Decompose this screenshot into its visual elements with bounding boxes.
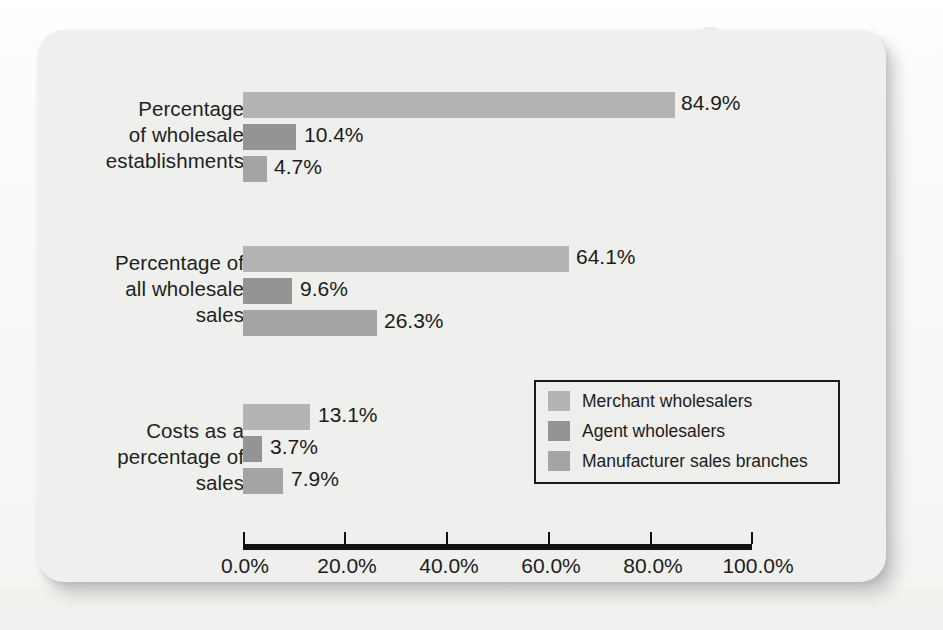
bar-group0-agent-wholesalers bbox=[243, 124, 296, 150]
legend-item-agent-wholesalers: Agent wholesalers bbox=[548, 418, 725, 444]
bar-group2-manufacturer-branches bbox=[243, 468, 283, 494]
legend-swatch-icon-agent bbox=[548, 421, 570, 441]
x-axis-tick-40 bbox=[446, 532, 448, 544]
chart-plot-area: Percentage of wholesale establishments 8… bbox=[38, 30, 886, 582]
x-axis-tick-label-0: 0.0% bbox=[221, 554, 269, 578]
legend-label-merchant: Merchant wholesalers bbox=[582, 391, 752, 412]
category-label-costs-percentage-of-sales: Costs as a percentage of sales bbox=[58, 418, 244, 496]
legend-swatch-icon-merchant bbox=[548, 391, 570, 411]
bar-value-group0-merchant: 84.9% bbox=[681, 90, 741, 116]
x-axis-tick-label-20: 20.0% bbox=[317, 554, 377, 578]
bar-group1-merchant-wholesalers bbox=[243, 246, 569, 272]
legend-swatch-icon-manufacturer bbox=[548, 451, 570, 471]
bar-value-group1-manufacturer: 26.3% bbox=[384, 308, 444, 334]
bar-group1-agent-wholesalers bbox=[243, 278, 292, 304]
x-axis-line bbox=[243, 544, 752, 550]
x-axis-tick-label-40: 40.0% bbox=[419, 554, 479, 578]
bar-value-group1-merchant: 64.1% bbox=[576, 244, 636, 270]
legend-label-agent: Agent wholesalers bbox=[582, 421, 725, 442]
x-axis-tick-80 bbox=[650, 532, 652, 544]
bar-group0-manufacturer-branches bbox=[243, 156, 267, 182]
bar-value-group0-agent: 10.4% bbox=[304, 122, 364, 148]
chart-legend: Merchant wholesalers Agent wholesalers M… bbox=[534, 380, 840, 484]
bar-value-group2-merchant: 13.1% bbox=[318, 402, 378, 428]
x-axis-tick-20 bbox=[344, 532, 346, 544]
x-axis-tick-60 bbox=[548, 532, 550, 544]
bar-value-group2-manufacturer: 7.9% bbox=[291, 466, 339, 492]
bar-group2-agent-wholesalers bbox=[243, 436, 262, 462]
x-axis-tick-label-80: 80.0% bbox=[623, 554, 683, 578]
legend-item-manufacturer-sales-branches: Manufacturer sales branches bbox=[548, 448, 808, 474]
chart-card: Percentage of wholesale establishments 8… bbox=[38, 30, 886, 582]
x-axis-tick-100 bbox=[751, 532, 753, 544]
bar-group2-merchant-wholesalers bbox=[243, 404, 310, 430]
bar-value-group2-agent: 3.7% bbox=[270, 434, 318, 460]
bar-group1-manufacturer-branches bbox=[243, 310, 377, 336]
category-label-wholesale-establishments: Percentage of wholesale establishments bbox=[58, 96, 244, 174]
legend-item-merchant-wholesalers: Merchant wholesalers bbox=[548, 388, 752, 414]
legend-label-manufacturer: Manufacturer sales branches bbox=[582, 451, 808, 472]
x-axis-tick-label-100: 100.0% bbox=[722, 554, 793, 578]
category-label-all-wholesale-sales: Percentage of all wholesale sales bbox=[58, 250, 244, 328]
x-axis-tick-label-60: 60.0% bbox=[521, 554, 581, 578]
bar-value-group1-agent: 9.6% bbox=[300, 276, 348, 302]
page-bottom-edge bbox=[0, 588, 943, 630]
bar-value-group0-manufacturer: 4.7% bbox=[274, 154, 322, 180]
x-axis-tick-0 bbox=[243, 532, 245, 544]
bar-group0-merchant-wholesalers bbox=[243, 92, 675, 118]
